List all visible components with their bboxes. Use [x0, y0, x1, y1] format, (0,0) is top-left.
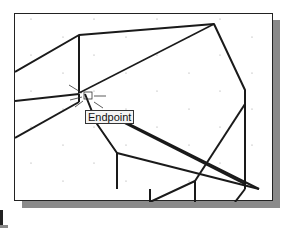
viewport-shadow-right: [273, 20, 280, 208]
viewport-shadow-bottom: [22, 201, 280, 208]
drawing-viewport[interactable]: Endpoint: [14, 13, 273, 201]
ucs-icon: [0, 210, 8, 228]
wireframe-lines: [15, 24, 259, 202]
drawing-canvas[interactable]: [15, 14, 274, 202]
osnap-tooltip: Endpoint: [85, 110, 134, 124]
